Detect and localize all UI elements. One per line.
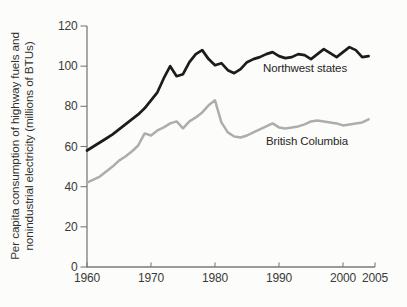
x-tick-label: 1960 bbox=[74, 271, 100, 285]
y-tick-label: 120 bbox=[58, 19, 78, 33]
x-tick-label: 2000 bbox=[330, 271, 356, 285]
y-tick-label: 20 bbox=[65, 220, 78, 234]
y-tick-label: 40 bbox=[65, 180, 78, 194]
y-tick-label: 60 bbox=[65, 140, 78, 154]
y-axis-title-line2: nonindustrial electricity (millions of B… bbox=[23, 11, 37, 281]
y-axis-title: Per capita consumption of highway fuels … bbox=[9, 11, 37, 281]
x-tick-label: 1980 bbox=[202, 271, 228, 285]
chart-figure: 020406080100120196019701980199020002005 … bbox=[0, 0, 407, 307]
x-tick-label: 1970 bbox=[138, 271, 164, 285]
y-tick-label: 80 bbox=[65, 99, 78, 113]
series-label-british-columbia: British Columbia bbox=[266, 135, 348, 147]
x-tick-label: 1990 bbox=[266, 271, 292, 285]
chart-canvas: 020406080100120196019701980199020002005 bbox=[0, 0, 407, 307]
series-label-northwest-states: Northwest states bbox=[263, 62, 347, 74]
y-tick-label: 100 bbox=[58, 59, 78, 73]
y-axis-title-line1: Per capita consumption of highway fuels … bbox=[9, 11, 23, 281]
x-tick-label: 2005 bbox=[362, 271, 388, 285]
